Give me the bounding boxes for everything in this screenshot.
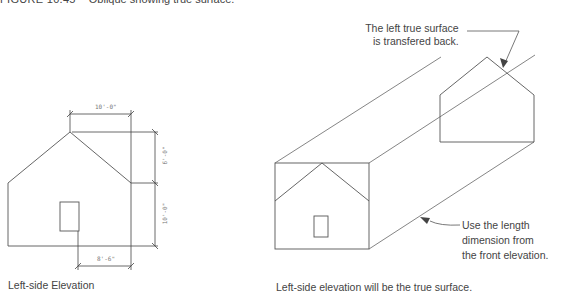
left-elevation-house xyxy=(8,132,131,246)
callout-bottom: Use the length dimension from the front … xyxy=(462,218,548,263)
dim-top-width: 10'-0" xyxy=(95,103,117,110)
oblique-caption: Left-side elevation will be the true sur… xyxy=(276,281,472,293)
oblique-door xyxy=(314,216,328,237)
callout-bottom-leader xyxy=(430,221,460,225)
callout-top: The left true surface is transfered back… xyxy=(365,22,459,48)
callout-top-line2: is transfered back. xyxy=(365,35,459,48)
callout-bottom-line1: Use the length xyxy=(462,218,548,233)
arrowhead-icon xyxy=(420,217,430,224)
left-elevation-door xyxy=(60,202,79,231)
callout-bottom-line3: the front elevation. xyxy=(462,248,548,263)
dim-wall-height: 10'-0" xyxy=(161,203,168,225)
left-elevation-caption: Left-side Elevation xyxy=(8,279,94,292)
callout-top-line1: The left true surface xyxy=(365,22,459,35)
callout-bottom-line2: dimension from xyxy=(462,233,548,248)
dim-roof-height: 6'-0" xyxy=(161,146,168,164)
oblique-front-face xyxy=(275,163,369,249)
dim-bottom-offset: 8'-6" xyxy=(97,255,115,262)
oblique-back-face xyxy=(440,57,534,142)
callout-top-leader xyxy=(467,31,519,63)
